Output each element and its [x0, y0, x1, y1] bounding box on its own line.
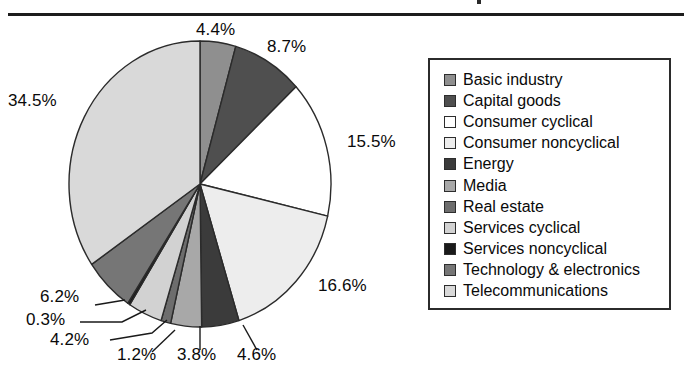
legend-item[interactable]: Real estate: [444, 196, 665, 217]
legend-swatch-icon: [444, 95, 456, 107]
legend-item-list: Basic industryCapital goodsConsumer cycl…: [444, 69, 665, 302]
legend-item[interactable]: Basic industry: [444, 69, 665, 90]
leader-line-technology-electronics: [95, 300, 125, 305]
legend-item-label: Technology & electronics: [463, 262, 640, 278]
pie-label-real-estate: 1.2%: [117, 345, 156, 365]
pie-label-energy: 4.6%: [237, 345, 276, 365]
pie-label-services-noncyclical: 0.3%: [26, 310, 65, 330]
legend-item[interactable]: Consumer noncyclical: [444, 133, 665, 154]
legend-item[interactable]: Technology & electronics: [444, 260, 665, 281]
legend-item-label: Telecommunications: [463, 283, 608, 299]
legend-item-label: Consumer noncyclical: [463, 135, 620, 151]
leader-line-services-cyclical: [110, 320, 167, 340]
legend-swatch-icon: [444, 285, 456, 297]
legend-swatch-icon: [444, 116, 456, 128]
legend-item[interactable]: Capital goods: [444, 90, 665, 111]
legend-item-label: Energy: [463, 156, 514, 172]
legend-item-label: Capital goods: [463, 93, 561, 109]
pie-label-basic-industry: 4.4%: [196, 20, 235, 40]
pie-label-services-cyclical: 4.2%: [50, 330, 89, 350]
legend-item-label: Real estate: [463, 199, 544, 215]
legend-item[interactable]: Services noncyclical: [444, 239, 665, 260]
pie-slices-group: [69, 41, 331, 327]
legend-swatch-icon: [444, 180, 456, 192]
legend: Basic industryCapital goodsConsumer cycl…: [428, 58, 671, 310]
legend-item[interactable]: Telecommunications: [444, 281, 665, 302]
legend-item-label: Services cyclical: [463, 220, 580, 236]
pie-label-technology-electronics: 6.2%: [40, 287, 79, 307]
pie-label-telecommunications: 34.5%: [8, 91, 57, 111]
legend-item-label: Services noncyclical: [463, 241, 607, 257]
legend-item-label: Consumer cyclical: [463, 114, 593, 130]
legend-item[interactable]: Media: [444, 175, 665, 196]
legend-swatch-icon: [444, 201, 456, 213]
leader-line-services-noncyclical: [80, 310, 146, 322]
legend-item-label: Media: [463, 178, 507, 194]
pie-label-consumer-cyclical: 15.5%: [347, 132, 396, 152]
legend-item[interactable]: Energy: [444, 154, 665, 175]
legend-swatch-icon: [444, 158, 456, 170]
pie-svg: [0, 0, 440, 382]
legend-swatch-icon: [444, 243, 456, 255]
legend-swatch-icon: [444, 264, 456, 276]
pie-chart-figure: 4.4% 8.7% 15.5% 16.6% 34.5% 6.2% 0.3% 4.…: [0, 0, 694, 382]
pie-label-consumer-noncyclical: 16.6%: [318, 276, 367, 296]
legend-item[interactable]: Consumer cyclical: [444, 111, 665, 132]
pie-plot-area: 4.4% 8.7% 15.5% 16.6% 34.5% 6.2% 0.3% 4.…: [0, 0, 440, 382]
pie-label-media: 3.8%: [177, 345, 216, 365]
legend-swatch-icon: [444, 137, 456, 149]
legend-item-label: Basic industry: [463, 72, 563, 88]
legend-swatch-icon: [444, 222, 456, 234]
clipped-title-remnant: [477, 0, 481, 4]
legend-item[interactable]: Services cyclical: [444, 217, 665, 238]
pie-label-capital-goods: 8.7%: [267, 37, 306, 57]
legend-swatch-icon: [444, 74, 456, 86]
